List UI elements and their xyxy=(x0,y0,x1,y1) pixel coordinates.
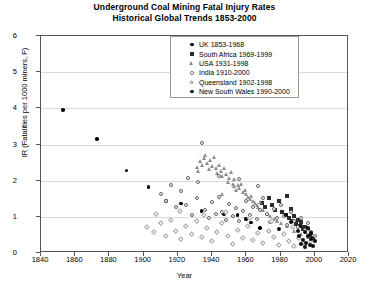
y-tick-label-0: 0 xyxy=(0,248,17,257)
data-point xyxy=(261,240,266,245)
x-tick-label-2000: 2000 xyxy=(297,255,331,264)
y-tick-label-1: 1 xyxy=(0,211,17,220)
data-point xyxy=(158,220,163,225)
data-point xyxy=(306,221,310,225)
data-point xyxy=(227,176,231,180)
data-point xyxy=(226,180,230,184)
data-point xyxy=(173,228,178,233)
data-point xyxy=(289,220,293,224)
data-point xyxy=(230,241,235,246)
x-tick-label-1880: 1880 xyxy=(91,255,125,264)
legend-item-4[interactable]: Queensland 1902-1998 xyxy=(171,78,298,87)
y-tick-label-6: 6 xyxy=(0,31,17,40)
data-point xyxy=(217,163,221,167)
x-tick-mark-2000 xyxy=(314,252,315,256)
data-point xyxy=(296,229,300,233)
chart-subtitle: Historical Global Trends 1853-2000 xyxy=(0,13,369,24)
data-point xyxy=(311,244,315,248)
data-point xyxy=(245,223,250,228)
data-point xyxy=(241,209,245,213)
gridline-y-2 xyxy=(41,181,347,182)
legend-item-1[interactable]: South Africa 1969-1999 xyxy=(171,49,298,58)
x-tick-label-1920: 1920 xyxy=(160,255,194,264)
data-point xyxy=(179,189,183,193)
data-point xyxy=(256,230,261,235)
data-point xyxy=(255,217,259,221)
x-tick-mark-1920 xyxy=(177,252,178,256)
data-point xyxy=(200,163,204,167)
legend-item-5[interactable]: New South Wales 1990-2000 xyxy=(171,87,298,96)
legend-marker-icon xyxy=(189,79,195,85)
x-tick-mark-2020 xyxy=(348,252,349,256)
x-tick-label-1840: 1840 xyxy=(23,255,57,264)
data-point xyxy=(177,208,182,213)
data-point xyxy=(214,229,219,234)
data-point xyxy=(184,223,189,228)
x-tick-label-1860: 1860 xyxy=(57,255,91,264)
x-tick-mark-1900 xyxy=(143,252,144,256)
data-point xyxy=(209,238,214,243)
data-point xyxy=(286,238,291,243)
data-point xyxy=(249,221,253,225)
data-point xyxy=(229,170,233,174)
y-axis-label: IR (Fatalities per 1000 miners, F) xyxy=(20,23,29,183)
chart-container: Underground Coal Mining Fatal Injury Rat… xyxy=(0,0,369,290)
gridline-y-3 xyxy=(41,145,347,146)
data-point xyxy=(125,169,129,173)
data-point xyxy=(285,194,289,198)
data-point xyxy=(207,216,211,220)
data-point xyxy=(279,221,283,225)
data-point xyxy=(232,177,236,181)
legend-item-label: India 1910-2000 xyxy=(199,69,250,76)
data-point xyxy=(225,233,230,238)
data-point xyxy=(234,206,238,210)
y-tick-label-2: 2 xyxy=(0,175,17,184)
data-point xyxy=(251,205,255,209)
x-axis-label: Year xyxy=(0,271,369,280)
data-point xyxy=(153,211,158,216)
x-tick-mark-1880 xyxy=(108,252,109,256)
data-point xyxy=(250,237,255,242)
gridline-y-4 xyxy=(41,108,347,109)
data-point xyxy=(258,200,262,204)
data-point xyxy=(200,141,204,145)
data-point xyxy=(179,237,184,242)
data-point xyxy=(204,226,209,231)
data-point xyxy=(279,203,283,207)
data-point xyxy=(244,199,248,203)
x-tick-mark-1860 xyxy=(74,252,75,256)
x-tick-label-1900: 1900 xyxy=(126,255,160,264)
data-point xyxy=(199,234,204,239)
chart-title-block: Underground Coal Mining Fatal Injury Rat… xyxy=(0,2,369,24)
data-point xyxy=(303,245,307,249)
chart-title: Underground Coal Mining Fatal Injury Rat… xyxy=(0,2,369,13)
legend-item-label: New South Wales 1990-2000 xyxy=(199,88,290,95)
x-tick-label-1960: 1960 xyxy=(228,255,262,264)
data-point xyxy=(61,108,65,112)
data-point xyxy=(235,227,240,232)
x-tick-label-1980: 1980 xyxy=(263,255,297,264)
data-point xyxy=(217,195,221,199)
legend-item-label: South Africa 1969-1999 xyxy=(199,51,272,58)
x-tick-mark-1980 xyxy=(280,252,281,256)
x-tick-mark-1960 xyxy=(245,252,246,256)
data-point xyxy=(313,234,317,238)
data-point xyxy=(214,166,218,170)
data-point xyxy=(164,199,168,203)
data-point xyxy=(265,212,269,216)
data-point xyxy=(195,196,199,200)
data-point xyxy=(224,218,228,222)
legend-marker-icon xyxy=(189,42,195,48)
data-point xyxy=(258,226,262,230)
data-point xyxy=(212,155,216,159)
legend-marker-icon xyxy=(189,60,195,66)
data-point xyxy=(144,224,149,229)
legend-item-3[interactable]: India 1910-2000 xyxy=(171,68,298,77)
x-tick-label-2020: 2020 xyxy=(331,255,365,264)
legend-item-label: Queensland 1902-1998 xyxy=(199,79,272,86)
legend-item-2[interactable]: USA 1931-1998 xyxy=(171,59,298,68)
legend-marker-icon xyxy=(189,51,195,57)
data-point xyxy=(277,227,281,231)
data-point xyxy=(147,185,151,189)
legend-item-0[interactable]: UK 1853-1968 xyxy=(171,40,298,49)
